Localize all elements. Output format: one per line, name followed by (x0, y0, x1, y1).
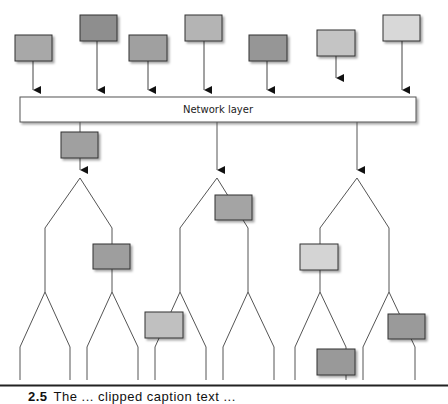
source-box-1 (15, 35, 52, 61)
right-tree-branch-r (357, 178, 389, 292)
node-box-a (93, 244, 130, 269)
right-rl (363, 292, 389, 380)
tree-boxes (61, 132, 425, 375)
right-ll (295, 292, 320, 380)
left-rl (87, 292, 112, 380)
left-tree-branch-l (45, 178, 80, 292)
middle-lr (180, 292, 206, 380)
node-box-e (388, 314, 425, 339)
source-box-3 (129, 35, 167, 61)
left-rr (112, 292, 138, 380)
node-box-c (145, 312, 183, 338)
middle-rr (248, 292, 274, 380)
figure-number: 2.5 (28, 389, 48, 404)
source-box-4 (185, 15, 222, 41)
node-box-f (317, 349, 355, 375)
stem-box-left (61, 132, 98, 158)
network-layer: Network layer (20, 97, 416, 122)
source-box-7 (383, 15, 420, 41)
middle-rl (223, 292, 248, 380)
node-box-d (300, 244, 338, 270)
left-lr (45, 292, 70, 380)
tree-lines (20, 122, 415, 380)
figure-caption: 2.5The ... clipped caption text ... (28, 389, 236, 404)
left-tree-branch-r (80, 178, 112, 292)
network-layer-label: Network layer (183, 104, 254, 115)
left-ll (20, 292, 45, 380)
source-boxes (15, 15, 420, 61)
right-tree-branch-l (320, 178, 357, 292)
figure-caption-text: The ... clipped caption text ... (54, 389, 236, 404)
source-box-6 (317, 30, 355, 56)
source-box-2 (80, 15, 117, 41)
node-box-b (215, 195, 252, 220)
middle-tree-branch-l (180, 178, 217, 292)
source-box-5 (249, 35, 287, 61)
